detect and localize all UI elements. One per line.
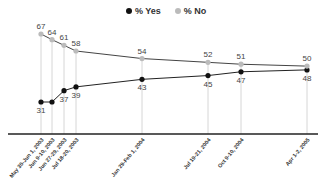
data-label: 47	[237, 76, 246, 85]
series-line	[41, 70, 307, 102]
data-point	[205, 60, 210, 65]
data-point	[61, 43, 66, 48]
data-point	[38, 99, 43, 104]
x-tick-label: Apr 1-2, 2005	[284, 137, 311, 167]
data-point	[49, 37, 54, 42]
data-label: 43	[138, 83, 147, 92]
data-point	[238, 62, 243, 67]
data-label: 51	[237, 52, 246, 61]
data-label: 37	[60, 95, 69, 104]
data-label: 45	[204, 80, 213, 89]
data-point	[304, 64, 309, 69]
x-tick-label: Jul 19-21, 2004	[182, 136, 212, 170]
data-point	[73, 84, 78, 89]
data-label: 61	[60, 33, 69, 42]
data-label: 31	[37, 106, 46, 115]
data-label: 50	[303, 54, 312, 63]
data-label: 39	[72, 91, 81, 100]
series-line	[41, 34, 307, 66]
data-point	[61, 88, 66, 93]
data-point	[38, 31, 43, 36]
data-label: 48	[303, 74, 312, 83]
data-point	[73, 48, 78, 53]
data-point	[205, 73, 210, 78]
data-label: 52	[204, 50, 213, 59]
line-chart: 313739434547486764615854525150May 30-Jun…	[0, 0, 324, 187]
data-point	[49, 99, 54, 104]
data-label: 54	[138, 47, 147, 56]
data-point	[238, 69, 243, 74]
x-tick-label: Jan 29-Feb 1, 2004	[110, 136, 146, 178]
data-label: 58	[72, 39, 81, 48]
data-point	[139, 77, 144, 82]
data-label: 67	[37, 22, 46, 31]
data-point	[139, 56, 144, 61]
x-tick-label: Oct 9-10, 2004	[216, 136, 245, 169]
data-label: 64	[48, 28, 57, 37]
